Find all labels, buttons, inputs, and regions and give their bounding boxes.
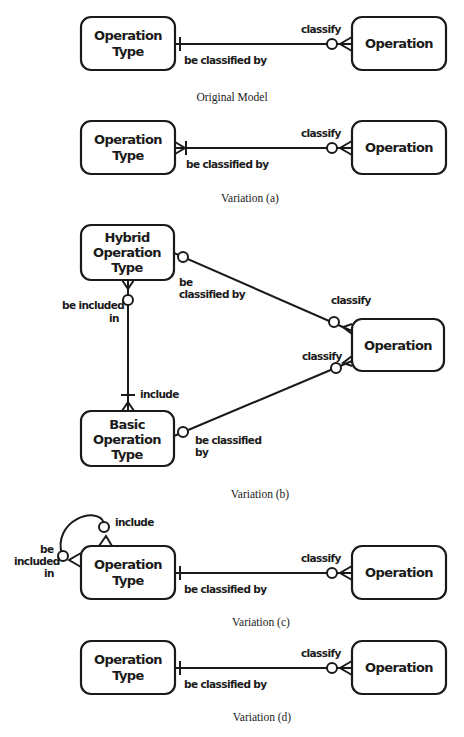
entity-name-line2: Type <box>112 148 144 163</box>
entity-name-line1: Operation <box>94 28 162 43</box>
relationship-label-left: be classified by <box>184 54 267 66</box>
relationship-label-left: be classified by <box>184 583 267 595</box>
entity-name: Operation <box>365 140 433 155</box>
crowsfoot-many-icon <box>69 553 81 567</box>
relationship-label-right: classify <box>301 552 341 564</box>
relationship-label-hybrid-classified-2: classified by <box>179 288 246 300</box>
caption: Variation (b) <box>231 488 290 501</box>
relationship-label-included-in-1: be included <box>62 299 124 311</box>
caption: Variation (a) <box>221 192 279 205</box>
optional-circle-icon <box>327 568 337 578</box>
relationship-label-include: include <box>115 516 154 528</box>
relationship-label-included-in-2: in <box>109 312 119 324</box>
relationship-label-left: be classified by <box>184 678 267 690</box>
relationship-label-classify-top: classify <box>331 294 371 306</box>
er-diagram-canvas: Operation Type Operation be classified b… <box>0 0 464 737</box>
entity-name-line1: Hybrid <box>104 230 150 245</box>
optional-circle-icon <box>327 143 337 153</box>
optional-circle-icon <box>331 363 341 373</box>
entity-name-line2: Operation <box>93 245 161 260</box>
relationship-label-included-in-3: in <box>44 567 54 579</box>
relationship-label-include: include <box>140 388 179 400</box>
entity-name-line1: Operation <box>94 652 162 667</box>
entity-name-line1: Operation <box>94 132 162 147</box>
optional-circle-icon <box>178 427 188 437</box>
optional-circle-icon <box>329 317 339 327</box>
relationship-label-basic-classified-2: by <box>195 446 209 458</box>
diagram-variation-d: Operation Type Operation be classified b… <box>81 641 446 724</box>
optional-circle-icon <box>178 252 188 262</box>
entity-name-line1: Operation <box>94 557 162 572</box>
entity-name-line3: Type <box>111 260 143 275</box>
caption: Variation (d) <box>233 711 292 724</box>
diagram-original-model: Operation Type Operation be classified b… <box>81 17 446 104</box>
relationship-label-left: be classified by <box>186 158 269 170</box>
entity-name-line1: Basic <box>109 417 145 432</box>
diagram-variation-b: Hybrid Operation Type Basic Operation Ty… <box>62 225 444 501</box>
relationship-label-included-in-2: included <box>14 555 60 567</box>
diagram-variation-c: Operation Type Operation include be incl… <box>14 515 446 629</box>
entity-name: Operation <box>364 338 432 353</box>
relationship-label-right: classify <box>301 647 341 659</box>
optional-circle-icon <box>123 295 133 305</box>
relationship-line-basic-classify <box>174 361 352 436</box>
entity-name-line2: Type <box>112 668 144 683</box>
optional-circle-icon <box>327 663 337 673</box>
optional-circle-icon <box>99 522 109 532</box>
entity-name: Operation <box>365 660 433 675</box>
relationship-label-hybrid-classified-1: be <box>179 276 193 288</box>
entity-name-line2: Operation <box>93 432 161 447</box>
entity-name-line2: Type <box>112 573 144 588</box>
relationship-label-basic-classified-1: be classified <box>195 434 261 446</box>
entity-name: Operation <box>365 36 433 51</box>
entity-name-line3: Type <box>111 447 143 462</box>
crowsfoot-many-icon <box>99 536 112 546</box>
entity-name-line2: Type <box>112 44 144 59</box>
relationship-label-classify-bottom: classify <box>302 350 342 362</box>
relationship-label-right: classify <box>301 23 341 35</box>
relationship-label-right: classify <box>301 127 341 139</box>
relationship-label-included-in-1: be <box>40 543 54 555</box>
entity-name: Operation <box>365 565 433 580</box>
optional-circle-icon <box>327 39 337 49</box>
caption: Original Model <box>196 91 267 104</box>
caption: Variation (c) <box>232 616 290 629</box>
diagram-variation-a: Operation Type Operation be classified b… <box>81 121 446 205</box>
